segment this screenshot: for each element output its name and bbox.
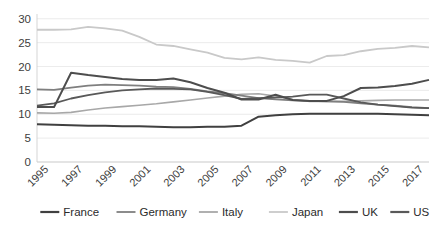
x-axis-labels-group: 1995199719992001200320052007200920112013… — [25, 163, 426, 189]
x-tick-label: 2015 — [365, 163, 391, 189]
y-axis-labels-group: 051015202530 — [18, 13, 31, 168]
legend-item-us[interactable]: US — [390, 206, 429, 218]
legend-item-germany[interactable]: Germany — [117, 206, 188, 218]
line-chart: 051015202530 199519971999200120032005200… — [0, 0, 444, 230]
x-tick-label: 1997 — [59, 163, 85, 189]
y-tick-label: 10 — [18, 108, 31, 120]
y-tick-label: 5 — [25, 132, 31, 144]
legend-label: Italy — [222, 206, 243, 218]
x-tick-label: 2003 — [161, 163, 187, 189]
legend-item-japan[interactable]: Japan — [269, 206, 323, 218]
legend-label: France — [63, 206, 99, 218]
legend-item-france[interactable]: France — [40, 206, 99, 218]
chart-canvas: 051015202530 199519971999200120032005200… — [0, 0, 444, 230]
series-line-us — [37, 88, 429, 108]
x-tick-label: 1999 — [93, 163, 119, 189]
series-line-france — [37, 114, 429, 127]
legend-item-italy[interactable]: Italy — [199, 206, 243, 218]
x-tick-label: 2011 — [298, 163, 323, 188]
x-tick-label: 2009 — [263, 163, 289, 189]
legend-label: Japan — [292, 206, 323, 218]
series-group — [37, 27, 429, 127]
x-tick-label: 2013 — [331, 163, 357, 189]
legend-label: US — [413, 206, 429, 218]
y-tick-label: 30 — [18, 13, 31, 25]
x-tick-label: 2001 — [127, 163, 153, 189]
y-tick-label: 15 — [18, 84, 31, 96]
x-tick-label: 2017 — [400, 163, 426, 189]
x-tick-label: 2005 — [195, 163, 221, 189]
y-tick-label: 25 — [18, 37, 31, 49]
legend-label: Germany — [140, 206, 188, 218]
series-line-uk — [37, 73, 429, 107]
y-tick-label: 0 — [25, 156, 31, 168]
legend-group: FranceGermanyItalyJapanUKUS — [40, 206, 429, 218]
series-line-japan — [37, 27, 429, 63]
legend-item-uk[interactable]: UK — [339, 206, 378, 218]
x-tick-label: 2007 — [229, 163, 255, 189]
y-tick-label: 20 — [18, 61, 31, 73]
legend-label: UK — [362, 206, 378, 218]
